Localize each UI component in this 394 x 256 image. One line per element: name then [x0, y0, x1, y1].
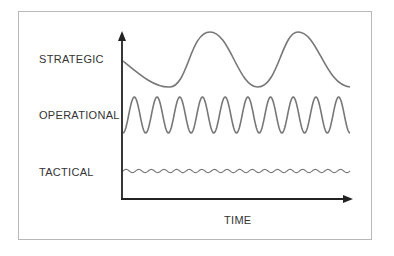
- y-axis-arrow-icon: [118, 31, 126, 41]
- operational-wave: [123, 97, 350, 133]
- tactical-wave: [123, 169, 350, 172]
- plot-area: [0, 0, 394, 256]
- strategic-wave: [123, 32, 350, 87]
- x-axis-arrow-icon: [343, 195, 353, 203]
